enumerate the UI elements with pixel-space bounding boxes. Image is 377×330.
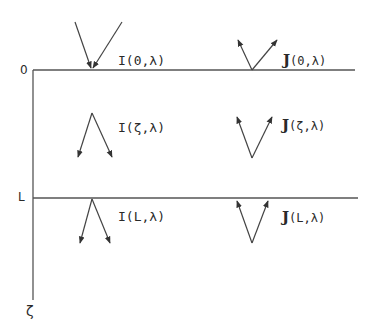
axis-label-zeta: ζ — [26, 304, 34, 318]
incoming-arrow-icon — [75, 22, 122, 68]
radiative-transfer-diagram — [0, 0, 377, 330]
downward-arrow-icon — [80, 199, 110, 243]
outgoing-arrow-icon — [238, 40, 277, 70]
axis-label-L: L — [18, 191, 25, 203]
label-I-zeta: I(ζ,λ) — [118, 121, 165, 134]
J-args: (L,λ) — [289, 211, 325, 225]
label-J-L: J(L,λ) — [282, 210, 325, 225]
J-args: (ζ,λ) — [289, 119, 325, 133]
label-J-0: J(0,λ) — [283, 53, 326, 68]
label-J-zeta: J(ζ,λ) — [282, 118, 325, 133]
J-args: (0,λ) — [290, 54, 326, 68]
upward-arrow-icon — [237, 201, 268, 243]
downward-arrow-icon — [78, 113, 112, 157]
label-I-0: I(0,λ) — [118, 54, 165, 67]
axis-label-zero: 0 — [20, 64, 28, 76]
label-I-L: I(L,λ) — [118, 210, 165, 223]
upward-arrow-icon — [237, 117, 272, 158]
